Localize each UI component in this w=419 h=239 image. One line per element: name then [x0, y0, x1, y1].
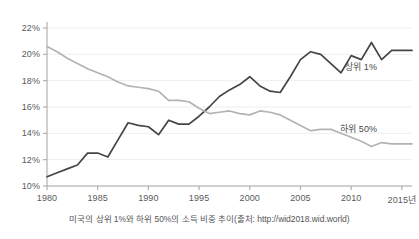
axis-lines-group — [47, 22, 412, 186]
x-tick-label: 1990 — [138, 193, 158, 203]
x-tick-label: 1985 — [87, 193, 107, 203]
y-tick-label: 18% — [4, 76, 40, 86]
chart-plot-area: 10%12%14%16%18%20%22% 198019851990199520… — [0, 0, 419, 210]
income-share-chart-figure: 10%12%14%16%18%20%22% 198019851990199520… — [0, 0, 419, 239]
series-label-bottom50: 하위 50% — [340, 122, 377, 135]
y-tick-label: 10% — [4, 181, 40, 191]
chart-caption: 미국의 상위 1%와 하위 50%의 소득 비중 추이(출처: http://w… — [0, 212, 419, 224]
x-tick-label: 1980 — [37, 193, 57, 203]
y-tick-label: 20% — [4, 49, 40, 59]
x-tick-label: 2010 — [341, 193, 361, 203]
y-tick-label: 14% — [4, 128, 40, 138]
series-label-top1: 상위 1% — [345, 60, 377, 73]
x-tick-label: 2005 — [290, 193, 310, 203]
x-tick-label: 1995 — [189, 193, 209, 203]
y-tick-label: 22% — [4, 23, 40, 33]
tick-marks-group — [43, 28, 402, 190]
line-chart-svg — [0, 0, 419, 210]
x-tick-label: 2000 — [240, 193, 260, 203]
y-tick-label: 12% — [4, 155, 40, 165]
gridlines-group — [47, 28, 412, 186]
x-tick-label: 2015년 — [388, 193, 417, 206]
y-tick-label: 16% — [4, 102, 40, 112]
